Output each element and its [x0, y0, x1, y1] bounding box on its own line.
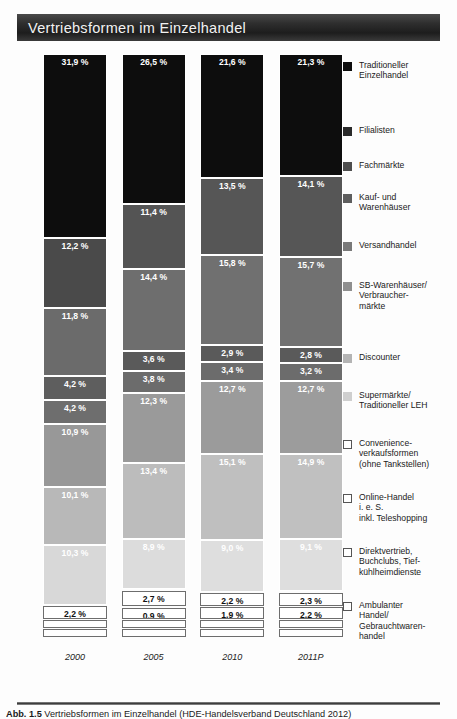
segment-fachmaerkte[interactable]: 15,8 %: [200, 255, 264, 345]
segment-convenience[interactable]: 2,2 %: [43, 606, 107, 619]
segment-value-label: 26,5 %: [140, 57, 167, 203]
legend-label: Fachmärkte: [359, 160, 404, 170]
legend-label: Versandhandel: [359, 240, 416, 250]
segment-discounter[interactable]: 14,9 %: [279, 454, 343, 539]
segment-value-label: 3,8 %: [143, 374, 165, 392]
legend-convenience[interactable]: Convenience-verkaufsformen(ohne Tankstel…: [343, 438, 429, 469]
legend-swatch-icon: [343, 602, 352, 611]
segment-value-label: 2,7 %: [143, 594, 165, 605]
segment-supermaerkte[interactable]: 9,1 %: [279, 539, 343, 591]
legend-filialisten[interactable]: Filialisten: [343, 125, 395, 136]
segment-fachmaerkte[interactable]: 14,4 %: [122, 269, 186, 351]
segment-value-label: 15,1 %: [219, 457, 246, 539]
segment-sb-warenhaeuser[interactable]: 12,3 %: [122, 393, 186, 463]
segment-online-handel[interactable]: [43, 620, 107, 627]
segment-value-label: 0,9 %: [143, 611, 165, 618]
segment-value-label: 2,3 %: [300, 596, 322, 605]
segment-discounter[interactable]: 10,1 %: [43, 487, 107, 545]
legend-swatch-icon: [343, 127, 352, 136]
legend-kauf-und-warenhaeuser[interactable]: Kauf- undWarenhäuser: [343, 192, 410, 213]
chart-legend: TraditionellerEinzelhandelFilialistenFac…: [343, 52, 457, 652]
x-axis-label-2011P: 2011P: [279, 652, 343, 662]
segment-fachmaerkte[interactable]: 11,8 %: [43, 308, 107, 376]
segment-convenience[interactable]: 2,7 %: [122, 591, 186, 606]
legend-direktvertrieb[interactable]: Direktvertrieb,Buchclubs, Tief-kühlheimd…: [343, 546, 421, 577]
segment-discounter[interactable]: 15,1 %: [200, 454, 264, 540]
segment-direktvertrieb[interactable]: [200, 620, 264, 627]
legend-traditioneller-einzelhandel[interactable]: TraditionellerEinzelhandel: [343, 60, 408, 81]
legend-supermaerkte[interactable]: Supermärkte/Traditioneller LEH: [343, 390, 427, 411]
legend-online-handel[interactable]: Online-Handeli. e. S.inkl. Teleshopping: [343, 492, 427, 523]
segment-value-label: 31,9 %: [62, 57, 89, 237]
segment-value-label: 4,2 %: [64, 403, 86, 423]
segment-fachmaerkte[interactable]: 15,7 %: [279, 257, 343, 347]
legend-fachmaerkte[interactable]: Fachmärkte: [343, 160, 404, 171]
legend-versandhandel[interactable]: Versandhandel: [343, 240, 416, 251]
x-axis-label-2010: 2010: [200, 652, 264, 662]
segment-traditioneller-einzelhandel[interactable]: 21,6 %: [200, 54, 264, 178]
footer-rule: [17, 702, 440, 705]
legend-sb-warenhaeuser[interactable]: SB-Warenhäuser/Verbraucher-märkte: [343, 280, 427, 311]
legend-label: Discounter: [359, 352, 400, 362]
segment-value-label: 12,7 %: [298, 384, 325, 453]
segment-value-label: 2,2 %: [221, 596, 243, 605]
segment-value-label: 2,8 %: [300, 350, 322, 362]
segment-online-handel[interactable]: 2,2 %: [279, 607, 343, 618]
segment-discounter[interactable]: 13,4 %: [122, 463, 186, 539]
segment-convenience[interactable]: 2,2 %: [200, 593, 264, 606]
segment-value-label: 15,8 %: [219, 258, 246, 344]
segment-versandhandel[interactable]: 3,4 %: [200, 362, 264, 381]
segment-online-handel[interactable]: 0,9 %: [122, 608, 186, 619]
column-2010: 21,6 %13,5 %15,8 %2,9 %3,4 %12,7 %15,1 %…: [200, 54, 264, 654]
legend-swatch-icon: [343, 242, 352, 251]
legend-ambulanter-handel[interactable]: AmbulanterHandel/Gebrauchtwaren-handel: [343, 600, 425, 642]
figure-page: Vertriebsformen im Einzelhandel 31,9 %12…: [0, 0, 457, 719]
segment-filialisten[interactable]: 12,2 %: [43, 238, 107, 308]
segment-kauf-und-warenhaeuser[interactable]: 4,2 %: [43, 376, 107, 400]
segment-ambulanter-handel[interactable]: [122, 629, 186, 636]
segment-value-label: 14,4 %: [140, 272, 167, 350]
segment-kauf-und-warenhaeuser[interactable]: 2,8 %: [279, 347, 343, 363]
legend-label: TraditionellerEinzelhandel: [359, 60, 408, 81]
legend-discounter[interactable]: Discounter: [343, 352, 400, 363]
segment-traditioneller-einzelhandel[interactable]: 21,3 %: [279, 54, 343, 176]
segment-versandhandel[interactable]: 3,8 %: [122, 371, 186, 393]
segment-kauf-und-warenhaeuser[interactable]: 3,6 %: [122, 351, 186, 371]
segment-traditioneller-einzelhandel[interactable]: 26,5 %: [122, 54, 186, 204]
segment-direktvertrieb[interactable]: [279, 620, 343, 627]
legend-swatch-icon: [343, 494, 352, 503]
segment-value-label: 9,1 %: [300, 542, 322, 590]
segment-convenience[interactable]: 2,3 %: [279, 593, 343, 606]
segment-direktvertrieb[interactable]: [122, 620, 186, 627]
column-2005: 26,5 %11,4 %14,4 %3,6 %3,8 %12,3 %13,4 %…: [122, 54, 186, 654]
segment-supermaerkte[interactable]: 10,3 %: [43, 545, 107, 604]
segment-value-label: 9,0 %: [221, 543, 243, 591]
segment-online-handel[interactable]: 1,9 %: [200, 607, 264, 618]
segment-versandhandel[interactable]: 3,2 %: [279, 363, 343, 381]
segment-ambulanter-handel[interactable]: [200, 629, 264, 636]
segment-sb-warenhaeuser[interactable]: 12,7 %: [200, 381, 264, 454]
segment-supermaerkte[interactable]: 8,9 %: [122, 539, 186, 590]
column-2000: 31,9 %12,2 %11,8 %4,2 %4,2 %10,9 %10,1 %…: [43, 54, 107, 654]
segment-supermaerkte[interactable]: 9,0 %: [200, 540, 264, 592]
legend-swatch-icon: [343, 440, 352, 449]
segment-filialisten[interactable]: 11,4 %: [122, 204, 186, 269]
x-axis-label-2000: 2000: [43, 652, 107, 662]
segment-value-label: 13,4 %: [140, 466, 167, 538]
segment-filialisten[interactable]: 13,5 %: [200, 178, 264, 255]
segment-kauf-und-warenhaeuser[interactable]: 2,9 %: [200, 345, 264, 362]
page-title: Vertriebsformen im Einzelhandel: [17, 20, 246, 36]
segment-traditioneller-einzelhandel[interactable]: 31,9 %: [43, 54, 107, 238]
segment-sb-warenhaeuser[interactable]: 12,7 %: [279, 381, 343, 454]
segment-direktvertrieb[interactable]: [43, 629, 107, 636]
segment-value-label: 21,6 %: [219, 57, 246, 177]
segment-value-label: 14,1 %: [298, 179, 325, 256]
segment-filialisten[interactable]: 14,1 %: [279, 176, 343, 257]
segment-ambulanter-handel[interactable]: [279, 629, 343, 636]
segment-value-label: 11,8 %: [62, 311, 88, 375]
segment-sb-warenhaeuser[interactable]: 10,9 %: [43, 424, 107, 487]
segment-versandhandel[interactable]: 4,2 %: [43, 400, 107, 424]
segment-value-label: 10,1 %: [62, 490, 89, 544]
chart-area: 31,9 %12,2 %11,8 %4,2 %4,2 %10,9 %10,1 %…: [17, 48, 440, 678]
legend-swatch-icon: [343, 354, 352, 363]
